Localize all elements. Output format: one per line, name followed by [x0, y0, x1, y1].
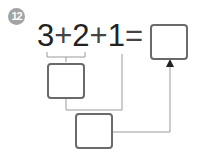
connector-box2-to-answer — [112, 66, 170, 132]
partial-sum-box[interactable] — [47, 63, 85, 99]
arrow-up-icon — [166, 59, 174, 67]
second-step-box[interactable] — [75, 113, 113, 149]
bracket-3-plus-2 — [47, 52, 85, 62]
answer-box[interactable] — [150, 24, 188, 60]
